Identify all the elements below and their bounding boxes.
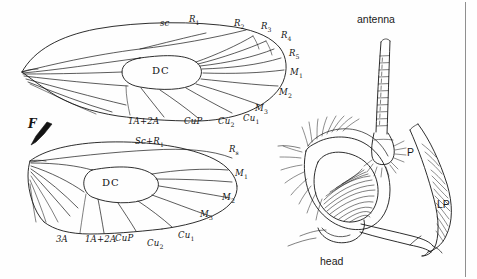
label-forewing-r3: R3	[261, 21, 272, 33]
label-forewing-1a2a: 1A+2A	[128, 116, 159, 126]
label-forewing-cu1: Cu1	[243, 113, 260, 125]
label-hindwing-cup: CuP	[115, 233, 133, 243]
label-forewing-r1: R1	[189, 14, 200, 26]
labial-palp-setae	[422, 144, 450, 241]
label-hindwing-m1: M1	[235, 168, 248, 180]
label-hindwing-cu2: Cu2	[147, 238, 164, 250]
label-hindwing-sc-r1: Sc+R1	[135, 136, 164, 148]
label-hindwing-3a: 3A	[56, 234, 68, 244]
label-forewing-m2: M2	[279, 87, 292, 99]
label-hindwing-rs: Rs	[229, 144, 239, 156]
label-hindwing-m3: M3	[200, 209, 213, 221]
label-forewing-r2: R2	[234, 18, 245, 30]
label-antenna: antenna	[357, 13, 395, 25]
label-forewing-discal-cell: DC	[152, 65, 170, 76]
label-hindwing-cu1: Cu1	[178, 230, 195, 242]
illustration-canvas: .ink{fill:none;stroke:#161616;stroke-lin…	[0, 0, 477, 279]
label-forewing-cu2: Cu2	[218, 116, 235, 128]
label-forewing-r5: R5	[289, 48, 300, 60]
label-labial-palp: LP	[437, 198, 450, 210]
figure-plate: .ink{fill:none;stroke:#161616;stroke-lin…	[0, 0, 477, 279]
label-forewing-sc: sc	[160, 18, 170, 28]
label-hindwing-fold-f: F	[28, 117, 37, 131]
label-head: head	[320, 255, 343, 267]
label-forewing-r4: R4	[281, 30, 292, 42]
label-palp: P	[407, 146, 414, 158]
label-forewing-cup: CuP	[184, 116, 202, 126]
label-hindwing-1a2a: 1A+2A	[85, 234, 116, 244]
label-hindwing-discal-cell: DC	[102, 177, 120, 188]
label-forewing-m1: M1	[290, 67, 303, 79]
label-hindwing-m2: M2	[222, 192, 235, 204]
head-setae	[280, 116, 359, 220]
head-drawing	[278, 39, 451, 256]
antenna-setae	[364, 141, 406, 177]
eye-facet-hatching	[324, 169, 375, 222]
